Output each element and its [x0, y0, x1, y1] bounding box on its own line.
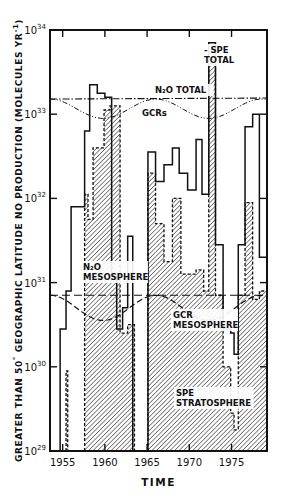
x-tick-label: 1960 [92, 457, 117, 468]
x-tick-label: 1965 [134, 457, 159, 468]
stratosphere-bar [88, 219, 93, 451]
x-axis-label: TIME [141, 476, 176, 488]
stratosphere-bar [156, 224, 164, 451]
x-tick-label: 1975 [219, 457, 244, 468]
stratosphere-bar [253, 299, 260, 451]
x-tick-label: 1970 [177, 457, 202, 468]
y-axis-label: GREATER THAN 50° GEOGRAPHIC LATITUDE NO … [12, 19, 24, 462]
stratosphere-bar [234, 430, 238, 451]
y-tick-label: 1033 [24, 107, 46, 120]
y-tick-label: 1029 [24, 444, 46, 457]
stratosphere-bar [120, 333, 128, 451]
annotation-label: N₂O [83, 262, 101, 272]
stratosphere-bar [93, 148, 104, 451]
annotation-label: N₂O TOTAL [155, 85, 207, 95]
annotation-label: TOTAL [204, 55, 235, 65]
annotation-label: SPE [176, 388, 194, 398]
annotation-label: GCRs [142, 108, 167, 118]
y-tick-label: 1034 [24, 23, 46, 36]
stratosphere-bar [259, 291, 267, 451]
annotation-label: - SPE [204, 45, 229, 55]
chart-figure: 1955196019651970197510291030103110321033… [0, 0, 283, 498]
annotation-label: STRATOSPHERE [176, 398, 251, 408]
stratosphere-bar [181, 274, 196, 451]
y-tick-label: 1030 [24, 360, 46, 373]
stratosphere-bar [196, 270, 204, 451]
annotation-label: GCR [173, 310, 193, 320]
annotation-label: MESOSPHERE [83, 272, 148, 282]
x-tick-label: 1955 [50, 457, 75, 468]
stratosphere-bar [238, 295, 245, 451]
log-production-chart: 1955196019651970197510291030103110321033… [0, 0, 283, 498]
stratosphere-bar [85, 194, 88, 451]
annotation-label: MESOSPHERE [173, 320, 238, 330]
n2o-total-curve [50, 98, 267, 99]
stratosphere-bar [164, 262, 172, 451]
stratosphere-bar [245, 203, 253, 451]
y-tick-label: 1032 [24, 191, 46, 204]
y-tick-label: 1031 [24, 276, 46, 289]
stratosphere-bar [148, 173, 156, 451]
